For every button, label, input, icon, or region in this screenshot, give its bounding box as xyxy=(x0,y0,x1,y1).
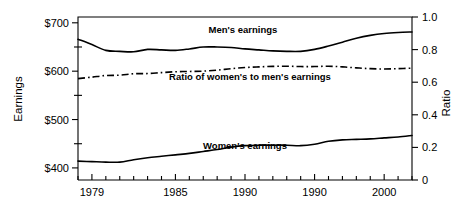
x-tick-label: 1990 xyxy=(233,186,257,198)
y2-tick-label: 1.0 xyxy=(422,11,437,23)
chart-canvas: 19791985199019902000 $700$600$500$400 1.… xyxy=(0,0,461,221)
series-annotations: Men's earningsRatio of women's to men's … xyxy=(169,24,331,151)
series-label-2: Women's earnings xyxy=(203,140,287,151)
y2-tick-label: 0.6 xyxy=(422,76,437,88)
x-tick-label: 2000 xyxy=(372,186,396,198)
series-label-0: Men's earnings xyxy=(209,24,278,35)
y-tick-label: $500 xyxy=(45,114,69,126)
y2-tick-label: 0 xyxy=(422,174,428,186)
x-tick-label: 1985 xyxy=(163,186,187,198)
y-tick-label: $400 xyxy=(45,162,69,174)
x-axis-tick-labels: 19791985199019902000 xyxy=(80,186,397,198)
y-axis-left-ticks xyxy=(72,23,82,168)
y-tick-label: $600 xyxy=(45,65,69,77)
y-axis-right-tick-labels: 1.00.80.60.40.20 xyxy=(422,11,437,186)
x-tick-label: 1979 xyxy=(80,186,104,198)
plot-frame xyxy=(78,17,412,180)
y2-tick-label: 0.4 xyxy=(422,109,437,121)
y2-tick-label: 0.8 xyxy=(422,44,437,56)
series-label-1: Ratio of women's to men's earnings xyxy=(169,71,331,82)
y-axis-right-title: Ratio xyxy=(440,90,452,117)
y2-tick-label: 0.2 xyxy=(422,141,437,153)
x-axis-ticks xyxy=(78,174,412,180)
y-axis-right-ticks xyxy=(412,17,418,180)
y-tick-label: $700 xyxy=(45,17,69,29)
plot-border xyxy=(78,17,412,180)
y-axis-left-title: Earnings xyxy=(12,76,24,122)
chart-figure: 19791985199019902000 $700$600$500$400 1.… xyxy=(0,0,461,221)
x-tick-label: 1990 xyxy=(302,186,326,198)
y-axis-left-tick-labels: $700$600$500$400 xyxy=(45,17,69,174)
